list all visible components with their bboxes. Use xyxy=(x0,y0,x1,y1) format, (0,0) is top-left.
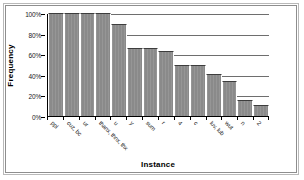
bar xyxy=(190,65,206,117)
bar xyxy=(64,13,80,116)
y-tick-label: 100% xyxy=(25,11,41,18)
bar xyxy=(127,48,143,116)
x-tick-label: luv, lub xyxy=(208,120,225,137)
x-tick-label: n xyxy=(240,120,246,126)
y-tick-mark xyxy=(41,117,45,118)
bar xyxy=(111,24,127,116)
bar xyxy=(174,65,190,117)
screenshot-frame: Frequency 100%80%60%40%20%0% pplcuz, bcu… xyxy=(0,0,304,180)
x-tick-label: cuz, bc xyxy=(66,120,83,137)
y-tick-mark xyxy=(41,35,45,36)
bar xyxy=(237,100,253,116)
y-tick-label: 60% xyxy=(29,52,41,59)
x-tick-label: sum xyxy=(145,120,157,132)
x-tick-label: y xyxy=(129,120,135,126)
bar xyxy=(95,13,111,116)
plot-frame xyxy=(47,14,269,117)
y-tick-mark xyxy=(41,76,45,77)
x-tick-label: 2 xyxy=(256,120,262,126)
bar xyxy=(206,74,222,116)
x-tick-label: u xyxy=(113,120,119,126)
y-tick-mark xyxy=(41,14,45,15)
x-tick-label: r xyxy=(161,120,167,126)
chart-plot-area xyxy=(47,14,269,117)
y-tick-mark xyxy=(41,55,45,56)
bar xyxy=(143,48,159,116)
bar xyxy=(158,51,174,116)
bars-group xyxy=(48,14,269,116)
y-tick-label: 80% xyxy=(29,31,41,38)
bar xyxy=(80,13,96,116)
y-tick-label: 20% xyxy=(29,93,41,100)
x-tick-label: ur xyxy=(81,120,89,128)
y-axis-ticks: 100%80%60%40%20%0% xyxy=(0,14,45,117)
bar xyxy=(253,105,269,116)
x-tick-label: ppl xyxy=(50,120,60,130)
x-axis-labels: pplcuz, bcurthanx, thnx, thxuysumr4cluv,… xyxy=(47,120,269,160)
x-axis-title: Instance xyxy=(47,160,269,169)
x-tick-label: c xyxy=(192,120,198,126)
bar xyxy=(222,81,238,116)
x-tick-label: 4 xyxy=(177,120,183,126)
y-tick-label: 0% xyxy=(32,114,41,121)
x-tick-label: wut xyxy=(224,120,235,131)
y-tick-label: 40% xyxy=(29,72,41,79)
bar xyxy=(48,13,64,116)
y-tick-mark xyxy=(41,96,45,97)
